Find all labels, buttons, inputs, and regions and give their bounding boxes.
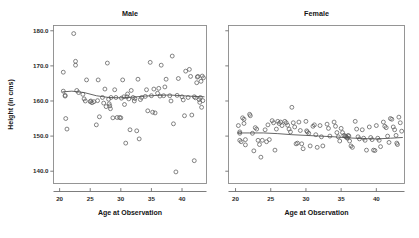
data-point (172, 122, 176, 126)
data-point (85, 78, 89, 82)
x-tick-label-25: 25 (87, 195, 94, 202)
data-point (187, 67, 191, 71)
data-point (124, 141, 128, 145)
data-point (97, 115, 101, 119)
data-point (163, 85, 167, 89)
data-point (164, 77, 168, 81)
panel-frame-male (54, 26, 207, 184)
data-point (96, 78, 100, 82)
data-point (199, 79, 203, 83)
data-point (113, 88, 117, 92)
data-point (394, 133, 398, 137)
data-point (137, 137, 141, 141)
scatter-plot-svg: Male140.0150.0160.0170.0180.02025303540A… (0, 0, 419, 238)
x-tick-label-35: 35 (148, 195, 155, 202)
data-point (162, 94, 166, 98)
data-point (256, 138, 260, 142)
data-point (321, 144, 325, 148)
data-point (263, 128, 267, 132)
data-point (146, 109, 150, 113)
data-point (297, 120, 301, 124)
data-point (318, 124, 322, 128)
data-point (319, 135, 323, 139)
data-point (259, 155, 263, 159)
data-point (280, 124, 284, 128)
data-point (74, 63, 78, 67)
y-tick-label-170: 170.0 (33, 62, 49, 69)
y-axis-title: Height (in cms) (7, 79, 15, 130)
data-point (64, 117, 68, 121)
data-point (108, 107, 112, 111)
data-point (243, 138, 247, 142)
panel-title-female: Female (304, 9, 329, 18)
data-point (348, 139, 352, 143)
data-point (195, 81, 199, 85)
y-tick-label-140: 140.0 (33, 167, 49, 174)
data-point (152, 87, 156, 91)
x-axis-title-female: Age at Observation (284, 209, 348, 217)
data-point (190, 113, 194, 117)
data-point (96, 99, 100, 103)
data-point (260, 138, 264, 142)
data-point (308, 144, 312, 148)
data-point (355, 127, 359, 131)
data-point (128, 128, 132, 132)
data-point (129, 89, 133, 93)
x-axis-title-male: Age at Observation (98, 209, 162, 217)
figure-container: Male140.0150.0160.0170.0180.02025303540A… (0, 0, 419, 238)
data-point (381, 120, 385, 124)
data-point (379, 145, 383, 149)
panel-frame-female (229, 26, 405, 184)
data-point (126, 92, 130, 96)
data-point (74, 59, 78, 63)
data-point (273, 148, 277, 152)
data-point (153, 111, 157, 115)
data-point (157, 86, 161, 90)
data-point (236, 124, 240, 128)
data-point (338, 139, 342, 143)
data-point (258, 143, 262, 147)
x-tick-label-40: 40 (179, 195, 186, 202)
data-point (111, 116, 115, 120)
data-point (374, 124, 378, 128)
data-point (103, 87, 107, 91)
data-point (325, 122, 329, 126)
data-point (360, 128, 364, 132)
y-tick-label-180: 180.0 (33, 27, 49, 34)
data-point (300, 142, 304, 146)
data-point (398, 121, 402, 125)
data-point (148, 60, 152, 64)
y-tick-label-160: 160.0 (33, 97, 49, 104)
data-point (304, 119, 308, 123)
data-point (291, 121, 295, 125)
data-point (298, 129, 302, 133)
data-point (252, 149, 256, 153)
x-tick-label-30: 30 (302, 195, 309, 202)
data-point (301, 147, 305, 151)
data-point (192, 159, 196, 163)
data-point (334, 124, 338, 128)
data-point (365, 148, 369, 152)
data-point (123, 103, 127, 107)
data-point (72, 32, 76, 36)
data-point (136, 77, 140, 81)
data-point (105, 61, 109, 65)
data-point (335, 131, 339, 135)
data-point (183, 114, 187, 118)
x-tick-label-25: 25 (267, 195, 274, 202)
data-point (243, 143, 247, 147)
data-point (200, 105, 204, 109)
x-tick-label-30: 30 (117, 195, 124, 202)
data-point (327, 126, 331, 130)
data-point (332, 120, 336, 124)
data-point (176, 77, 180, 81)
data-point (397, 115, 401, 119)
panel-title-male: Male (122, 9, 138, 18)
data-point (61, 89, 65, 93)
data-point (290, 105, 294, 109)
data-point (396, 143, 400, 147)
data-point (159, 63, 163, 67)
data-point (61, 70, 65, 74)
data-point (151, 110, 155, 114)
data-point (189, 74, 193, 78)
